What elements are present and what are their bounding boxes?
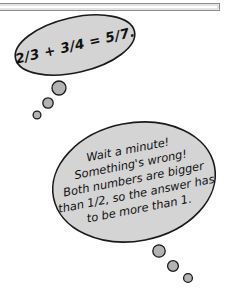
thought-dot-large (153, 245, 165, 257)
thought-dot-large (52, 81, 66, 95)
illustration-canvas: 2/3 + 3/4 = 5/7. Wait a minute! Somethin… (0, 0, 226, 291)
thought-dot-small (33, 111, 41, 119)
equation-bubble: 2/3 + 3/4 = 5/7. (9, 4, 141, 85)
thought-dot-medium (43, 98, 53, 108)
upper-thought-trail (33, 81, 66, 119)
page-border-frame (0, 4, 220, 11)
lower-thought-trail (153, 245, 193, 283)
thought-dot-medium (168, 261, 179, 272)
thought-dot-small (184, 274, 193, 283)
reasoning-bubble: Wait a minute! Something's wrong! Both n… (42, 108, 226, 255)
